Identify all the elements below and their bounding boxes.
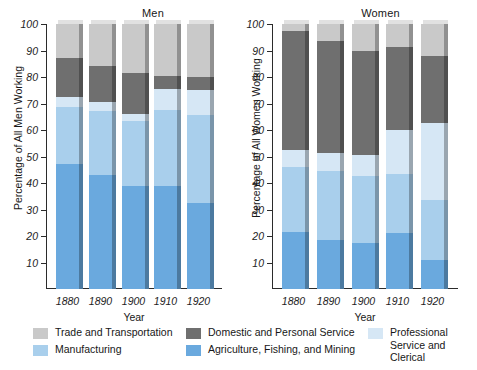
bar-segment-agriculture-fishing-and-mining — [282, 232, 305, 289]
bar-segment-agriculture-fishing-and-mining — [187, 203, 210, 289]
bar-segment-side — [112, 175, 116, 289]
bar-segment-domestic-and-personal-service — [122, 73, 145, 114]
bar-segment-trade-and-transportation — [282, 24, 305, 31]
bar-segment-professional-service-and-clerical — [386, 130, 409, 174]
bar-segment-side — [409, 24, 413, 47]
bar-segment-trade-and-transportation — [352, 24, 375, 51]
bar-segment-side — [145, 114, 149, 121]
bar-top-cap — [354, 20, 379, 24]
bar-segment-agriculture-fishing-and-mining — [122, 186, 145, 289]
x-tick-label-1890: 1890 — [89, 295, 112, 307]
bar-segment-agriculture-fishing-and-mining — [317, 240, 340, 289]
y-tick-label-60: 60 — [26, 124, 38, 136]
bar-segment-professional-service-and-clerical — [154, 89, 177, 110]
x-tick-label-1900: 1900 — [352, 295, 375, 307]
panel-title-women: Women — [232, 7, 477, 19]
bar-segment-side — [79, 107, 83, 164]
bar-segment-manufacturing — [352, 176, 375, 242]
x-tick-label-1880: 1880 — [56, 295, 79, 307]
legend-item[interactable]: Domestic and Personal Service — [186, 326, 366, 339]
bar-segment-agriculture-fishing-and-mining — [421, 260, 444, 289]
chart-figure: Men Percentage of All Men Working 102030… — [0, 0, 477, 370]
bar-men-1890: 1890 — [89, 24, 112, 289]
bar-stack — [56, 24, 79, 289]
legend-swatch-icon — [33, 345, 48, 356]
x-tick-label-1910: 1910 — [386, 295, 409, 307]
bar-segment-side — [409, 130, 413, 174]
y-tick-label-50: 50 — [26, 151, 38, 163]
bar-segment-side — [177, 24, 181, 76]
bar-segment-trade-and-transportation — [421, 24, 444, 56]
bar-segment-agriculture-fishing-and-mining — [352, 243, 375, 289]
bar-segment-side — [305, 167, 309, 232]
bar-segment-side — [340, 240, 344, 289]
y-tick-label-100: 100 — [246, 18, 264, 30]
bar-segment-agriculture-fishing-and-mining — [56, 164, 79, 289]
bar-segment-agriculture-fishing-and-mining — [154, 186, 177, 289]
bar-segment-trade-and-transportation — [317, 24, 340, 41]
x-tick-label-1920: 1920 — [187, 295, 210, 307]
bar-top-cap — [423, 20, 448, 24]
bars-men: 18801890190019101920 — [46, 24, 222, 289]
x-tick-label-1880: 1880 — [282, 295, 305, 307]
bar-women-1880: 1880 — [282, 24, 305, 289]
legend-item[interactable]: Trade and Transportation — [33, 326, 193, 339]
x-axis-title-women: Year — [272, 311, 458, 323]
bar-segment-side — [305, 150, 309, 167]
y-tick-label-70: 70 — [26, 98, 38, 110]
legend-item[interactable]: Professional Service and Clerical — [368, 326, 477, 364]
y-tick-label-40: 40 — [26, 177, 38, 189]
x-tick-label-1900: 1900 — [122, 295, 145, 307]
bar-segment-side — [340, 24, 344, 41]
bar-segment-trade-and-transportation — [122, 24, 145, 73]
plot-area-women: 102030405060708090100 188018901900191019… — [272, 24, 458, 289]
bar-segment-domestic-and-personal-service — [56, 58, 79, 96]
bar-segment-side — [375, 243, 379, 289]
bar-segment-manufacturing — [122, 121, 145, 186]
bar-stack — [89, 24, 112, 289]
bar-segment-professional-service-and-clerical — [187, 90, 210, 115]
bar-stack — [386, 24, 409, 289]
bars-women: 18801890190019101920 — [272, 24, 458, 289]
bar-segment-domestic-and-personal-service — [282, 31, 305, 150]
bar-segment-domestic-and-personal-service — [386, 47, 409, 130]
bar-segment-side — [375, 155, 379, 176]
bar-segment-trade-and-transportation — [89, 24, 112, 66]
y-tick-label-20: 20 — [252, 230, 264, 242]
bar-segment-side — [409, 233, 413, 289]
bar-segment-manufacturing — [386, 174, 409, 234]
bar-segment-professional-service-and-clerical — [122, 114, 145, 121]
legend-swatch-icon — [186, 328, 201, 339]
bar-women-1910: 1910 — [386, 24, 409, 289]
bar-segment-side — [444, 123, 448, 200]
legend-item[interactable]: Agriculture, Fishing, and Mining — [186, 343, 366, 356]
bar-top-cap — [156, 20, 181, 24]
bar-segment-domestic-and-personal-service — [154, 76, 177, 89]
y-tick-label-60: 60 — [252, 124, 264, 136]
bar-segment-side — [145, 121, 149, 186]
bar-stack — [352, 24, 375, 289]
legend-label: Agriculture, Fishing, and Mining — [208, 343, 355, 356]
legend-column-3: Professional Service and Clerical — [368, 326, 477, 368]
bar-segment-professional-service-and-clerical — [317, 153, 340, 172]
bar-segment-side — [177, 76, 181, 89]
legend-column-2: Domestic and Personal ServiceAgriculture… — [186, 326, 366, 360]
bar-segment-side — [177, 89, 181, 110]
bar-men-1900: 1900 — [122, 24, 145, 289]
bar-segment-trade-and-transportation — [386, 24, 409, 47]
bar-segment-side — [340, 153, 344, 172]
bar-segment-side — [375, 176, 379, 242]
y-tick-label-10: 10 — [252, 257, 264, 269]
legend-label: Professional Service and Clerical — [390, 326, 477, 364]
bar-top-cap — [388, 20, 413, 24]
y-tick-label-90: 90 — [252, 45, 264, 57]
legend-label: Manufacturing — [55, 343, 122, 356]
bar-segment-manufacturing — [187, 115, 210, 202]
bar-segment-domestic-and-personal-service — [89, 66, 112, 102]
y-tick-label-100: 100 — [20, 18, 38, 30]
legend-swatch-icon — [368, 328, 383, 339]
legend-item[interactable]: Manufacturing — [33, 343, 193, 356]
bar-segment-side — [210, 24, 214, 77]
x-axis-title-men: Year — [46, 311, 222, 323]
bar-segment-domestic-and-personal-service — [187, 77, 210, 90]
